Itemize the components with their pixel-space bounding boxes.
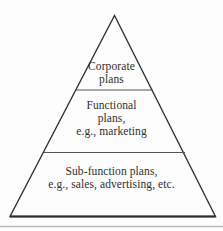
level-corporate-plans-label: Corporate plans — [0, 60, 223, 86]
pyramid-diagram: Corporate plans Functional plans, e.g., … — [0, 0, 223, 231]
label-line: Functional — [0, 99, 223, 112]
label-line: plans, — [0, 112, 223, 125]
label-line: Sub-function plans, — [0, 165, 223, 178]
label-line: e.g., marketing — [0, 125, 223, 138]
label-line: e.g., sales, advertising, etc. — [0, 178, 223, 191]
label-line: plans — [0, 73, 223, 86]
label-line: Corporate — [0, 60, 223, 73]
level-sub-function-plans-label: Sub-function plans, e.g., sales, adverti… — [0, 165, 223, 191]
level-functional-plans-label: Functional plans, e.g., marketing — [0, 99, 223, 138]
